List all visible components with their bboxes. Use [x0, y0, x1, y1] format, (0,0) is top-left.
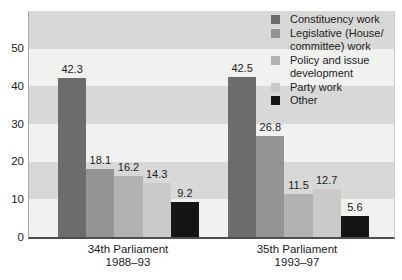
legend-label: Constituency work [290, 13, 380, 27]
legend-label-line: development [290, 67, 370, 81]
legend-item: Constituency work [271, 13, 384, 27]
bar-value-label: 42.5 [231, 63, 252, 74]
y-tick-label: 30 [0, 118, 24, 131]
legend-item: Other [271, 94, 384, 108]
y-tick-label: 0 [0, 231, 24, 244]
bar-policy-and-issue-development [284, 194, 312, 237]
bar-value-label: 26.8 [260, 122, 281, 133]
legend-swatch-legislative-house-committee-work [271, 29, 280, 38]
bar-policy-and-issue-development [114, 176, 142, 237]
bar-value-label: 12.7 [316, 175, 337, 186]
bar-value-label: 18.1 [90, 155, 111, 166]
bar-value-label: 16.2 [118, 162, 139, 173]
bar-party-work [143, 183, 171, 237]
bar-value-label: 5.6 [347, 202, 362, 213]
legend-label: Policy and issuedevelopment [290, 54, 370, 81]
bar-other [341, 216, 369, 237]
parliament-work-bar-chart: Constituency workLegislative (House/comm… [0, 0, 402, 280]
bar-value-label: 11.5 [288, 180, 309, 191]
legend-label: Legislative (House/committee) work [290, 27, 384, 54]
x-axis-group-label-34th-parliament: 34th Parliament 1988–93 [88, 243, 169, 269]
legend-item: Legislative (House/committee) work [271, 27, 384, 54]
legend-label: Party work [290, 81, 342, 95]
legend-swatch-policy-and-issue-development [271, 56, 280, 65]
y-tick-label: 40 [0, 80, 24, 93]
legend-swatch-other [271, 96, 280, 105]
y-tick-label: 10 [0, 193, 24, 206]
bar-legislative-house-committee-work [256, 136, 284, 237]
chart-legend: Constituency workLegislative (House/comm… [271, 13, 384, 108]
legend-label-line: committee) work [290, 40, 384, 54]
bar-party-work [313, 189, 341, 237]
legend-label-line: Party work [290, 81, 342, 95]
bar-constituency-work [58, 78, 86, 237]
y-tick-label: 50 [0, 42, 24, 55]
bar-constituency-work [228, 77, 256, 237]
bar-legislative-house-committee-work [86, 169, 114, 237]
group-label-line: 34th Parliament [88, 243, 169, 256]
group-label-line: 35th Parliament [257, 243, 338, 256]
plot-area: Constituency workLegislative (House/comm… [28, 11, 395, 239]
bar-other [171, 202, 199, 237]
legend-label-line: Policy and issue [290, 54, 370, 68]
bar-value-label: 9.2 [177, 188, 192, 199]
group-label-line: 1988–93 [88, 256, 169, 269]
legend-swatch-constituency-work [271, 15, 280, 24]
legend-item: Policy and issuedevelopment [271, 54, 384, 81]
legend-swatch-party-work [271, 83, 280, 92]
group-label-line: 1993–97 [257, 256, 338, 269]
legend-label-line: Legislative (House/ [290, 27, 384, 41]
bar-value-label: 42.3 [61, 64, 82, 75]
bar-value-label: 14.3 [146, 169, 167, 180]
legend-label-line: Constituency work [290, 13, 380, 27]
y-tick-label: 20 [0, 155, 24, 168]
legend-label-line: Other [290, 94, 318, 108]
legend-label: Other [290, 94, 318, 108]
legend-item: Party work [271, 81, 384, 95]
x-axis-group-label-35th-parliament: 35th Parliament 1993–97 [257, 243, 338, 269]
